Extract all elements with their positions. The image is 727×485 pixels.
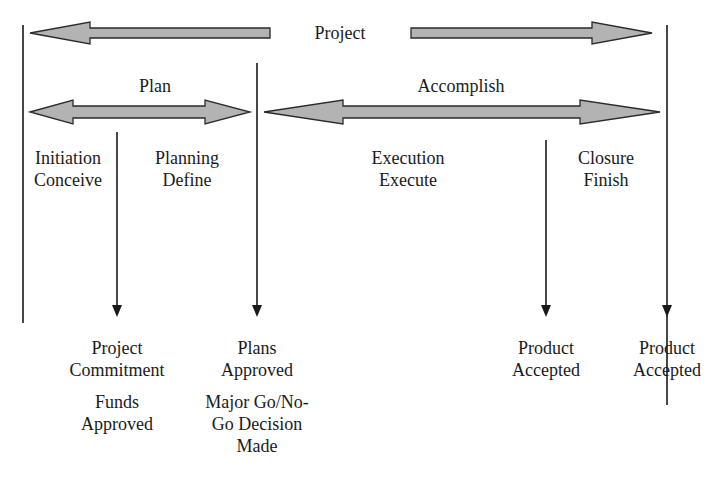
milestone-note: Go Decision bbox=[205, 413, 308, 435]
milestone-project-commitment: Project Commitment Funds Approved bbox=[69, 337, 164, 435]
plan-label: Plan bbox=[139, 75, 171, 97]
plan-double-arrow-icon bbox=[30, 100, 250, 124]
accomplish-label: Accomplish bbox=[418, 75, 505, 97]
milestone-product-accepted-2: Product Accepted bbox=[633, 337, 701, 381]
milestone-line: Plans bbox=[205, 337, 308, 359]
milestone-note: Funds bbox=[69, 391, 164, 413]
phase-name: Planning bbox=[155, 147, 219, 169]
phase-verb: Execute bbox=[372, 169, 445, 191]
phase-name: Initiation bbox=[34, 147, 102, 169]
project-right-arrow-icon bbox=[411, 22, 652, 44]
phase-execution: Execution Execute bbox=[372, 147, 445, 191]
milestone-note: Approved bbox=[69, 413, 164, 435]
plans-approved-arrow bbox=[252, 63, 262, 317]
milestone-product-accepted-1: Product Accepted bbox=[512, 337, 580, 381]
milestone-line: Product bbox=[633, 337, 701, 359]
phase-verb: Conceive bbox=[34, 169, 102, 191]
milestone-line: Commitment bbox=[69, 359, 164, 381]
milestone-line: Product bbox=[512, 337, 580, 359]
milestone-line: Approved bbox=[205, 359, 308, 381]
milestone-plans-approved: Plans Approved Major Go/No- Go Decision … bbox=[205, 337, 308, 457]
accomplish-label-text: Accomplish bbox=[418, 75, 505, 97]
phase-initiation: Initiation Conceive bbox=[34, 147, 102, 191]
milestone-line: Accepted bbox=[512, 359, 580, 381]
phase-verb: Finish bbox=[578, 169, 634, 191]
phase-planning: Planning Define bbox=[155, 147, 219, 191]
project-left-arrow-icon bbox=[30, 22, 270, 44]
phase-verb: Define bbox=[155, 169, 219, 191]
accomplish-double-arrow-icon bbox=[264, 100, 660, 124]
phase-name: Closure bbox=[578, 147, 634, 169]
phase-closure: Closure Finish bbox=[578, 147, 634, 191]
milestone-line: Project bbox=[69, 337, 164, 359]
milestone-note: Made bbox=[205, 435, 308, 457]
milestone-line: Accepted bbox=[633, 359, 701, 381]
phase-name: Execution bbox=[372, 147, 445, 169]
product-accepted-arrow bbox=[541, 140, 551, 317]
plan-label-text: Plan bbox=[139, 75, 171, 97]
project-label: Project bbox=[315, 22, 366, 44]
project-commitment-arrow bbox=[112, 132, 122, 317]
project-label-text: Project bbox=[315, 22, 366, 44]
milestone-note: Major Go/No- bbox=[205, 391, 308, 413]
